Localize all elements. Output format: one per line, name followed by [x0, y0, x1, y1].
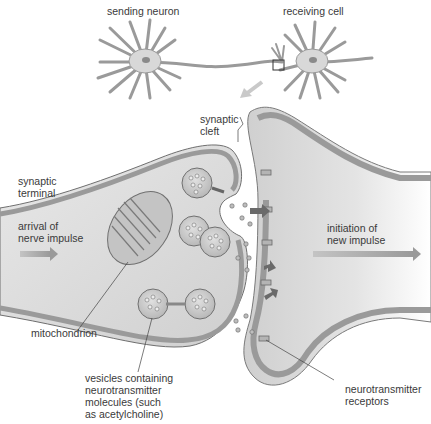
label-synaptic-cleft: synaptic cleft [200, 113, 239, 137]
label-mitochondrion: mitochondrion [31, 327, 97, 339]
diagram-artwork [0, 0, 431, 424]
synapse-diagram: sending neuron receiving cell synaptic c… [0, 0, 431, 424]
label-vesicles: vesicles containing neurotransmitter mol… [85, 372, 173, 420]
receiving-cell-nucleus [309, 57, 317, 63]
label-neurotransmitter-receptors: neurotransmitter receptors [345, 383, 421, 407]
sending-neuron-nucleus [142, 57, 150, 63]
label-synaptic-terminal: synaptic terminal [18, 175, 57, 199]
label-sending-neuron: sending neuron [107, 5, 179, 17]
zoom-arrow [246, 82, 262, 94]
label-arrival-of-nerve-impulse: arrival of nerve impulse [18, 220, 83, 244]
label-initiation-of-new-impulse: initiation of new impulse [327, 222, 385, 246]
label-receiving-cell: receiving cell [283, 5, 344, 17]
